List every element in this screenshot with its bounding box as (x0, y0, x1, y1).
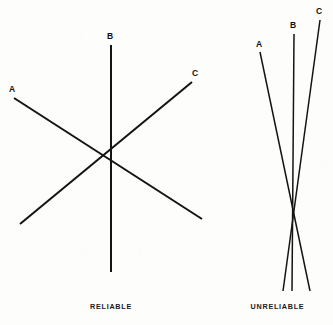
caption-reliable: RELIABLE (0, 303, 222, 310)
unreliable-label-c: C (316, 7, 322, 16)
panel-unreliable-lines (260, 20, 320, 291)
reliable-label-b: B (107, 32, 113, 41)
figure-root: A B C A B C RELIABLE UNRELIABLE (0, 0, 333, 325)
unreliable-line-b (292, 34, 294, 291)
panel-reliable-lines (14, 45, 202, 272)
unreliable-label-a: A (256, 40, 262, 49)
reliable-line-c (20, 82, 192, 224)
caption-unreliable: UNRELIABLE (222, 303, 333, 310)
reliable-label-c: C (192, 69, 198, 78)
reliable-label-a: A (9, 85, 15, 94)
unreliable-line-a (260, 52, 310, 291)
reliable-line-a (14, 98, 202, 219)
diagram-canvas (0, 0, 333, 325)
unreliable-label-b: B (290, 21, 296, 30)
